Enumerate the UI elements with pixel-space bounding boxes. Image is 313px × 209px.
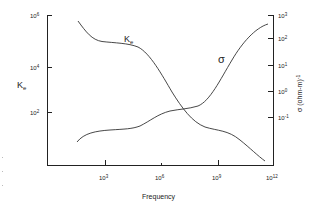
svg-text:104: 104 — [30, 64, 40, 71]
ke-curve — [78, 21, 265, 161]
chart: 106 104 102 103 102 101 100 10-1 103 106… — [0, 0, 313, 209]
bottom-tick-labels: 103 106 109 1012 — [99, 174, 278, 181]
right-axis-title: σ (ohm-m)-1 — [295, 75, 304, 112]
right-tick-labels: 103 102 101 100 10-1 — [278, 12, 289, 121]
svg-text:103: 103 — [99, 174, 109, 181]
scan-marks — [2, 157, 3, 186]
svg-text:100: 100 — [278, 88, 288, 95]
svg-text:102: 102 — [30, 109, 40, 116]
left-axis-title: Ke — [17, 80, 27, 91]
svg-text:1012: 1012 — [266, 174, 278, 181]
svg-text:103: 103 — [278, 12, 288, 19]
axes — [47, 15, 274, 166]
svg-text:106: 106 — [30, 12, 40, 19]
svg-text:109: 109 — [212, 174, 222, 181]
sigma-curve-label: σ — [218, 53, 225, 65]
svg-text:101: 101 — [278, 62, 288, 69]
x-axis-title: Frequency — [142, 193, 176, 201]
svg-text:102: 102 — [278, 35, 288, 42]
svg-text:10-1: 10-1 — [278, 114, 289, 121]
left-tick-labels: 106 104 102 — [30, 12, 40, 116]
svg-text:106: 106 — [155, 174, 165, 181]
ke-curve-label: Ke — [124, 34, 134, 45]
